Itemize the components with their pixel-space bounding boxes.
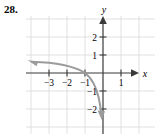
y-axis-label: y — [101, 4, 107, 15]
y-tick-label-1: 1 — [92, 51, 97, 61]
x-axis-arrowhead-icon — [131, 69, 139, 77]
x-tick-label-1: 1 — [119, 78, 124, 88]
y-axis-arrowhead-icon — [99, 16, 107, 24]
figure-container: 28. — [0, 0, 155, 134]
graph-svg: −3 −2 −1 1 2 1 −1 −2 x y — [0, 0, 155, 134]
y-tick-label-minus1: −1 — [87, 87, 97, 97]
x-tick-label-minus2: −2 — [62, 78, 72, 88]
curve-bottom-arrowhead-icon — [98, 111, 105, 120]
y-tick-label-minus2: −2 — [87, 105, 97, 115]
y-tick-label-2: 2 — [92, 33, 97, 43]
x-tick-label-minus3: −3 — [44, 78, 54, 88]
x-axis-label: x — [142, 68, 148, 79]
